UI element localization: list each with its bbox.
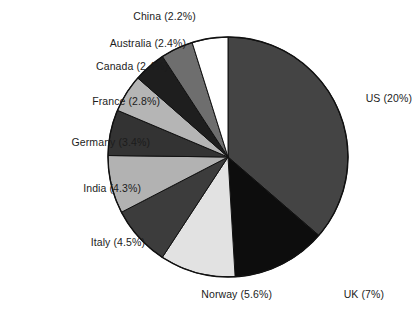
pie-label-us-text: US (20%) xyxy=(366,92,412,104)
pie-label-uk: UK (7%) xyxy=(284,288,384,300)
pie-label-germany-text: Germany (3.4%) xyxy=(72,136,150,148)
pie-label-uk-text: UK (7%) xyxy=(344,288,384,300)
pie-label-china: China (2.2%) xyxy=(0,10,409,22)
pie-label-us: US (20%) xyxy=(352,92,412,104)
pie-label-canada-text: Canada (2.4%) xyxy=(96,60,168,72)
pie-label-italy: Italy (4.5%) xyxy=(0,236,145,248)
pie-label-norway: Norway (5.6%) xyxy=(132,288,272,300)
pie-label-norway-text: Norway (5.6%) xyxy=(201,288,272,300)
pie-label-italy-text: Italy (4.5%) xyxy=(91,236,145,248)
pie-label-australia: Australia (2.4%) xyxy=(0,37,186,49)
pie-label-australia-text: Australia (2.4%) xyxy=(110,37,186,49)
pie-label-france: France (2.8%) xyxy=(0,95,160,107)
pie-label-china-text: China (2.2%) xyxy=(133,10,195,22)
pie-label-germany: Germany (3.4%) xyxy=(0,136,150,148)
pie-label-france-text: France (2.8%) xyxy=(92,95,160,107)
pie-label-canada: Canada (2.4%) xyxy=(0,60,168,72)
pie-label-india: India (4.3%) xyxy=(0,182,141,194)
pie-label-india-text: India (4.3%) xyxy=(83,182,141,194)
